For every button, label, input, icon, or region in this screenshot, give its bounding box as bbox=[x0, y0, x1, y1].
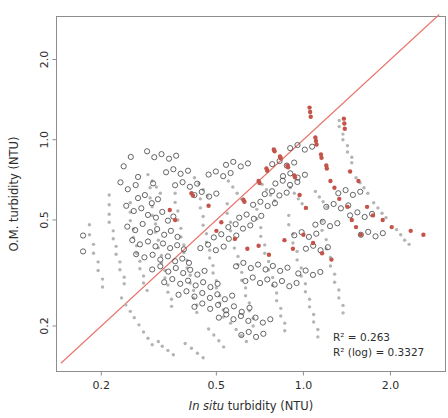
data-point bbox=[145, 289, 148, 292]
data-point bbox=[206, 204, 210, 208]
data-point bbox=[341, 132, 344, 135]
data-point bbox=[245, 247, 249, 251]
data-point bbox=[235, 192, 238, 195]
data-point bbox=[263, 252, 266, 255]
data-point bbox=[293, 175, 297, 179]
data-point bbox=[325, 205, 328, 208]
data-point bbox=[365, 205, 369, 209]
data-point bbox=[319, 156, 323, 160]
data-point bbox=[242, 200, 246, 204]
data-point bbox=[333, 272, 336, 275]
data-point bbox=[338, 119, 341, 122]
data-point bbox=[320, 251, 324, 255]
data-point bbox=[328, 179, 332, 183]
data-point bbox=[240, 271, 243, 274]
y-axis-title: O.M. turbidity (NTU) bbox=[7, 137, 21, 252]
data-point bbox=[329, 264, 332, 267]
data-point bbox=[297, 197, 300, 200]
data-point bbox=[172, 353, 175, 356]
data-point bbox=[265, 169, 269, 173]
scatter-plot-figure: 0.20.51.02.0 0.20.51.02.0 In situ turbid… bbox=[0, 0, 448, 418]
data-point bbox=[346, 150, 349, 153]
data-point bbox=[409, 229, 413, 233]
data-point bbox=[279, 307, 282, 310]
data-point bbox=[142, 330, 145, 333]
data-point bbox=[341, 304, 344, 307]
data-point bbox=[354, 225, 358, 229]
data-point bbox=[316, 328, 319, 331]
data-point bbox=[217, 339, 220, 342]
data-point bbox=[348, 169, 352, 173]
data-point bbox=[263, 243, 266, 246]
data-point bbox=[259, 226, 262, 229]
data-point bbox=[108, 203, 111, 206]
data-point bbox=[312, 320, 315, 323]
data-point bbox=[362, 186, 365, 189]
data-point bbox=[316, 335, 319, 338]
data-point bbox=[122, 282, 125, 285]
data-point bbox=[371, 213, 375, 217]
data-point bbox=[112, 237, 115, 240]
data-point bbox=[286, 165, 290, 169]
data-point bbox=[192, 289, 195, 292]
data-point bbox=[101, 285, 104, 288]
data-point bbox=[170, 298, 173, 301]
data-point bbox=[96, 269, 99, 272]
annotation-r-squared: R² = 0.263 bbox=[333, 331, 390, 343]
data-point bbox=[189, 274, 192, 277]
data-point bbox=[138, 260, 141, 263]
data-point bbox=[256, 244, 260, 248]
data-point bbox=[151, 343, 154, 346]
data-point bbox=[207, 327, 210, 330]
data-point bbox=[295, 258, 298, 261]
data-point bbox=[287, 223, 290, 226]
data-point bbox=[251, 324, 254, 327]
data-point bbox=[108, 193, 111, 196]
data-point bbox=[133, 316, 136, 319]
data-point bbox=[173, 192, 176, 195]
data-point bbox=[233, 246, 236, 249]
data-point bbox=[231, 185, 234, 188]
data-point bbox=[304, 290, 307, 293]
data-point bbox=[195, 311, 198, 314]
data-point bbox=[399, 233, 402, 236]
data-point bbox=[309, 115, 313, 119]
data-point bbox=[229, 321, 232, 324]
data-point bbox=[314, 190, 317, 193]
data-point bbox=[108, 221, 111, 224]
data-point bbox=[225, 202, 228, 205]
data-point bbox=[279, 314, 282, 317]
data-point bbox=[236, 255, 239, 258]
data-point bbox=[403, 238, 406, 241]
data-point bbox=[193, 176, 196, 179]
data-point bbox=[211, 264, 214, 267]
data-point bbox=[222, 345, 225, 348]
data-point bbox=[308, 298, 311, 301]
data-point bbox=[88, 223, 91, 226]
y-tick-label: 2.0 bbox=[39, 51, 52, 69]
data-point bbox=[183, 342, 186, 345]
data-point bbox=[279, 156, 283, 160]
data-point bbox=[166, 290, 169, 293]
data-point bbox=[338, 125, 341, 128]
data-point bbox=[182, 243, 185, 246]
data-point bbox=[148, 186, 151, 189]
data-point bbox=[146, 173, 149, 176]
data-point bbox=[359, 233, 363, 237]
y-tick-label: 0.2 bbox=[39, 317, 52, 335]
data-point bbox=[314, 142, 318, 146]
data-point bbox=[208, 249, 211, 252]
data-point bbox=[214, 229, 218, 233]
data-point bbox=[312, 313, 315, 316]
data-point bbox=[196, 352, 199, 355]
data-point bbox=[129, 219, 132, 222]
data-point bbox=[308, 110, 312, 114]
data-point bbox=[201, 223, 204, 226]
data-point bbox=[166, 349, 169, 352]
x-tick-label: 1.0 bbox=[295, 379, 313, 392]
data-point bbox=[199, 197, 202, 200]
data-point bbox=[341, 311, 344, 314]
data-point bbox=[275, 291, 278, 294]
data-point bbox=[304, 282, 307, 285]
data-point bbox=[350, 218, 354, 222]
